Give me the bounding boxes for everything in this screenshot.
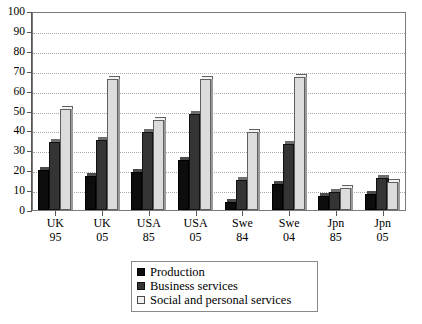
bars-layer <box>33 13 405 210</box>
bar-side-face <box>258 129 260 210</box>
bar[interactable] <box>365 194 376 210</box>
bar[interactable] <box>38 170 49 210</box>
y-axis-tick-label: 40 <box>14 126 26 138</box>
x-axis-label-year: 85 <box>328 231 345 245</box>
bar-side-face <box>305 74 307 210</box>
bar[interactable] <box>340 188 351 210</box>
bar-body <box>365 194 376 210</box>
bar[interactable] <box>387 182 398 210</box>
bar[interactable] <box>142 132 153 210</box>
x-axis-tick-label: USA85 <box>137 217 161 244</box>
bar-group <box>225 13 258 210</box>
x-axis-tick-label: Swe04 <box>279 217 300 244</box>
bar-body <box>107 79 118 210</box>
bar-top-face <box>342 185 353 188</box>
bar-group <box>178 13 211 210</box>
bar-group <box>318 13 351 210</box>
x-axis-label-country: USA <box>184 216 208 230</box>
bar[interactable] <box>272 184 283 210</box>
bar-body <box>153 120 164 210</box>
bar[interactable] <box>60 109 71 210</box>
bar-body <box>85 176 96 210</box>
x-axis-tick-label: UK05 <box>93 217 110 244</box>
y-axis-tick-label: 50 <box>14 106 26 118</box>
bar-top-face <box>155 117 166 120</box>
bar-body <box>142 132 153 210</box>
bar-body <box>376 178 387 210</box>
x-axis-label-year: 05 <box>184 231 208 245</box>
y-axis-tick-label: 100 <box>8 6 25 18</box>
x-axis-label-year: 04 <box>279 231 300 245</box>
y-axis-tick-label: 30 <box>14 146 26 158</box>
bar[interactable] <box>96 140 107 210</box>
x-axis-tick-label: UK95 <box>47 217 64 244</box>
bar-top-face <box>109 76 120 79</box>
bar-top-face <box>202 76 213 79</box>
bar-top-face <box>62 106 73 109</box>
bar[interactable] <box>200 79 211 210</box>
bar[interactable] <box>131 172 142 210</box>
legend-item-business-services: Business services <box>137 279 312 293</box>
legend-item-label: Social and personal services <box>150 294 291 307</box>
bar-body <box>131 172 142 210</box>
bar-group <box>365 13 398 210</box>
x-axis-tick-label: Swe84 <box>232 217 253 244</box>
bar[interactable] <box>318 196 329 210</box>
bar-body <box>49 142 60 210</box>
bar[interactable] <box>283 144 294 210</box>
bar-body <box>38 170 49 210</box>
bar-body <box>96 140 107 210</box>
bar-side-face <box>211 76 213 210</box>
bar-side-face <box>398 179 400 210</box>
bar-body <box>247 132 258 210</box>
bar[interactable] <box>189 114 200 210</box>
bar-side-face <box>71 106 73 210</box>
y-axis-tick-label: 10 <box>14 185 26 197</box>
bar[interactable] <box>107 79 118 210</box>
bar-top-face <box>389 179 400 182</box>
bar[interactable] <box>294 77 305 210</box>
bar-body <box>225 202 236 210</box>
bar-group <box>131 13 164 210</box>
y-axis-tick-label: 0 <box>19 205 25 217</box>
bar-body <box>283 144 294 210</box>
chart-legend: Production Business services Social and … <box>131 261 318 312</box>
bar[interactable] <box>85 176 96 210</box>
bar-group <box>38 13 71 210</box>
x-axis-tick-label: Jpn85 <box>328 217 345 244</box>
x-axis-label-year: 05 <box>93 231 110 245</box>
bar-body <box>318 196 329 210</box>
bar-side-face <box>351 185 353 210</box>
x-axis-label-year: 05 <box>374 231 391 245</box>
bar[interactable] <box>153 120 164 210</box>
bar[interactable] <box>329 192 340 210</box>
bar[interactable] <box>236 180 247 210</box>
y-axis-tick-label: 20 <box>14 165 26 177</box>
bar-body <box>272 184 283 210</box>
bar-body <box>236 180 247 210</box>
x-axis-tick-label: USA05 <box>184 217 208 244</box>
bar-body <box>294 77 305 210</box>
bar-body <box>178 160 189 210</box>
y-axis-tick-label: 90 <box>14 26 26 38</box>
legend-item-label: Business services <box>150 280 238 293</box>
bar-top-face <box>249 129 260 132</box>
x-axis: UK95UK05USA85USA05Swe84Swe04Jpn85Jpn05 <box>32 211 406 257</box>
chart-container: 0102030405060708090100 UK95UK05USA85USA0… <box>0 0 422 324</box>
bar[interactable] <box>247 132 258 210</box>
bar[interactable] <box>225 202 236 210</box>
legend-swatch-icon <box>137 282 145 290</box>
legend-item-production: Production <box>137 265 312 279</box>
bar[interactable] <box>49 142 60 210</box>
bar-side-face <box>164 117 166 210</box>
bar[interactable] <box>178 160 189 210</box>
bar[interactable] <box>376 178 387 210</box>
bar-top-face <box>296 74 307 77</box>
legend-item-social-personal-services: Social and personal services <box>137 293 312 307</box>
x-axis-label-country: UK <box>93 216 110 230</box>
x-axis-label-country: Jpn <box>328 216 345 230</box>
x-axis-label-country: Jpn <box>374 216 391 230</box>
bar-body <box>329 192 340 210</box>
bar-group <box>272 13 305 210</box>
x-axis-label-year: 85 <box>137 231 161 245</box>
